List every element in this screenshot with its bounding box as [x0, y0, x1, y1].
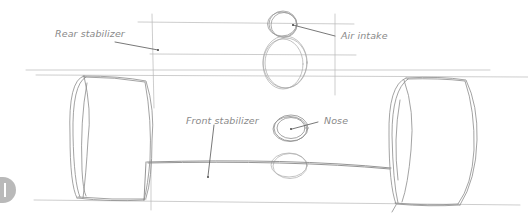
label-air-intake: Air intake: [341, 30, 388, 41]
left-wheel: [70, 76, 153, 201]
engine-cover-shape: [263, 36, 307, 89]
right-wheel: [389, 77, 477, 212]
sketch-diagram: Rear stabilizer Air intake Front stabili…: [0, 0, 528, 214]
label-nose: Nose: [324, 115, 348, 126]
nose-lower-shape: [271, 153, 307, 179]
label-front-stabilizer: Front stabilizer: [186, 115, 259, 126]
construction-lines: [26, 14, 528, 210]
label-rear-stabilizer: Rear stabilizer: [55, 28, 125, 39]
front-stabilizer-shape: [144, 161, 391, 200]
leader-dots: [157, 24, 294, 178]
